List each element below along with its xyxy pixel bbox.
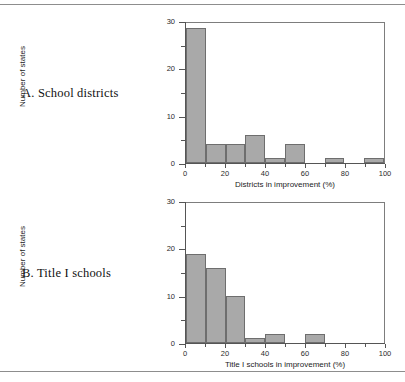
y-tick-label: 10: [153, 292, 175, 301]
bar: [305, 334, 325, 343]
y-minor-tick: [181, 320, 185, 321]
bar-series: [186, 23, 384, 163]
chart-title-i-schools: Number of states Title I schools in impr…: [0, 194, 405, 370]
x-tick-label: 20: [215, 169, 235, 178]
bar: [265, 334, 285, 343]
y-minor-tick: [181, 273, 185, 274]
bar-slot: [265, 23, 285, 163]
x-minor-tick: [365, 164, 366, 167]
bar: [226, 144, 246, 163]
bar-slot: [245, 203, 265, 343]
bar-slot: [226, 23, 246, 163]
x-tick-label: 100: [375, 169, 395, 178]
y-minor-tick: [181, 140, 185, 141]
y-tick-label: 30: [153, 17, 175, 26]
bar-slot: [206, 203, 226, 343]
bar: [245, 135, 265, 163]
x-tick: [265, 164, 266, 168]
x-tick: [225, 164, 226, 168]
x-tick: [225, 344, 226, 348]
top-divider-rule: [0, 4, 405, 5]
x-tick: [305, 164, 306, 168]
bar-slot: [325, 23, 345, 163]
x-tick: [385, 344, 386, 348]
y-tick-label: 10: [153, 112, 175, 121]
bar-slot: [325, 203, 345, 343]
x-tick-label: 80: [335, 169, 355, 178]
x-tick: [185, 164, 186, 168]
bar: [226, 296, 246, 343]
x-minor-tick: [205, 164, 206, 167]
y-tick: [179, 117, 185, 118]
bar-slot: [285, 203, 305, 343]
bottom-divider-rule: [0, 371, 405, 372]
x-tick: [265, 344, 266, 348]
x-minor-tick: [285, 164, 286, 167]
x-minor-tick: [365, 344, 366, 347]
y-minor-tick: [181, 46, 185, 47]
x-minor-tick: [325, 344, 326, 347]
y-tick: [179, 249, 185, 250]
bar-slot: [245, 23, 265, 163]
bar-series: [186, 203, 384, 343]
y-tick-label: 20: [153, 64, 175, 73]
figure-page: A. School districts B. Title I schools N…: [0, 0, 405, 382]
x-tick-label: 20: [215, 349, 235, 358]
x-tick-label: 0: [175, 169, 195, 178]
y-minor-tick: [181, 226, 185, 227]
x-tick: [345, 344, 346, 348]
bar-slot: [186, 203, 206, 343]
x-tick-label: 40: [255, 349, 275, 358]
x-tick-label: 60: [295, 349, 315, 358]
bar: [206, 144, 226, 163]
bar-slot: [265, 203, 285, 343]
bar: [285, 144, 305, 163]
x-tick: [385, 164, 386, 168]
x-tick-label: 40: [255, 169, 275, 178]
x-tick-label: 60: [295, 169, 315, 178]
chart-school-districts: Number of states Districts in improvemen…: [0, 14, 405, 190]
bar-slot: [226, 203, 246, 343]
y-tick-label: 0: [153, 339, 175, 348]
bar-slot: [206, 23, 226, 163]
y-tick: [179, 297, 185, 298]
bar-slot: [344, 203, 364, 343]
x-tick: [185, 344, 186, 348]
y-axis-line: [185, 22, 186, 164]
bar-slot: [364, 23, 384, 163]
bar-slot: [305, 23, 325, 163]
x-axis-title: Districts in improvement (%): [185, 180, 385, 189]
y-axis-line: [185, 202, 186, 344]
y-tick: [179, 69, 185, 70]
bar: [206, 268, 226, 343]
bar-slot: [364, 203, 384, 343]
x-minor-tick: [245, 344, 246, 347]
x-minor-tick: [245, 164, 246, 167]
x-minor-tick: [325, 164, 326, 167]
bar-slot: [186, 23, 206, 163]
x-minor-tick: [205, 344, 206, 347]
y-axis-title: Number of states: [18, 27, 27, 127]
y-tick-label: 0: [153, 159, 175, 168]
bar-slot: [344, 23, 364, 163]
x-tick-label: 0: [175, 349, 195, 358]
y-tick-label: 30: [153, 197, 175, 206]
bar: [186, 254, 206, 343]
bar: [186, 28, 206, 163]
y-tick: [179, 202, 185, 203]
bar-slot: [305, 203, 325, 343]
y-tick: [179, 22, 185, 23]
x-tick-label: 100: [375, 349, 395, 358]
x-minor-tick: [285, 344, 286, 347]
x-tick: [345, 164, 346, 168]
y-minor-tick: [181, 93, 185, 94]
x-tick: [305, 344, 306, 348]
x-tick-label: 80: [335, 349, 355, 358]
bar-slot: [285, 23, 305, 163]
x-axis-title: Title I schools in improvement (%): [185, 360, 385, 369]
y-tick-label: 20: [153, 244, 175, 253]
y-axis-title: Number of states: [18, 207, 27, 307]
